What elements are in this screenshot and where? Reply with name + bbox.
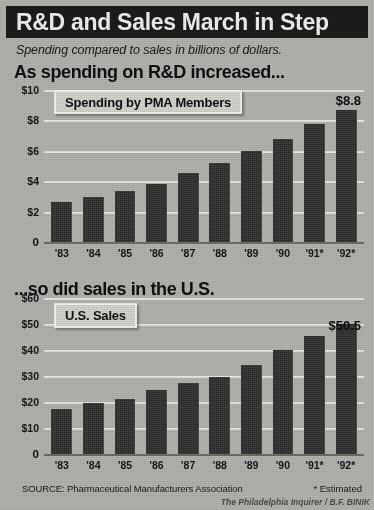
bar-column	[172, 300, 204, 454]
bar-85	[115, 191, 136, 242]
bar-89	[241, 151, 262, 243]
ytick-label: $40	[21, 344, 39, 356]
bar-column	[236, 300, 268, 454]
bar-83	[51, 202, 72, 243]
plot-area-spending: 0$2$4$6$8$10	[44, 92, 364, 244]
xtick-label: '83	[46, 247, 78, 259]
bar-column	[141, 92, 173, 242]
bar-column	[78, 92, 110, 242]
bar-90	[273, 350, 294, 454]
axis-baseline: 0	[44, 454, 364, 456]
bar-83	[51, 409, 72, 454]
bar-88	[209, 163, 230, 243]
xtick-label: '90	[267, 459, 299, 471]
ytick-label: $20	[21, 396, 39, 408]
ytick-label: $8	[27, 114, 39, 126]
ytick-label: $50	[21, 318, 39, 330]
bar-89	[241, 365, 262, 454]
bar-84	[83, 197, 104, 242]
xtick-label: '87	[172, 247, 204, 259]
bar-column	[267, 300, 299, 454]
bar-column	[109, 92, 141, 242]
bar-90	[273, 139, 294, 243]
legend-sales-label: U.S. Sales	[65, 308, 126, 323]
bar-91	[304, 336, 325, 454]
value-callout-sales: $50.5	[328, 318, 361, 333]
ytick-label: $10	[21, 422, 39, 434]
xtick-label: '90	[267, 247, 299, 259]
bar-column	[141, 300, 173, 454]
headline-bottom: ...so did sales in the U.S.	[14, 279, 214, 300]
masthead-banner: R&D and Sales March in Step	[6, 6, 368, 38]
bars-spending	[44, 92, 364, 242]
ytick-label: $2	[27, 206, 39, 218]
value-callout-spending: $8.8	[336, 93, 361, 108]
bar-86	[146, 184, 167, 243]
xtick-label: '89	[236, 459, 268, 471]
bar-88	[209, 377, 230, 454]
xtick-label: '84	[78, 247, 110, 259]
xtick-label: '86	[141, 247, 173, 259]
bar-87	[178, 173, 199, 242]
ytick-label: 0	[33, 448, 39, 460]
bar-92	[336, 110, 357, 242]
ytick-label: $30	[21, 370, 39, 382]
bar-column	[330, 92, 362, 242]
xtick-label: '91*	[299, 459, 331, 471]
bar-84	[83, 403, 104, 454]
page-title: R&D and Sales March in Step	[16, 9, 329, 36]
bar-column	[204, 300, 236, 454]
bar-column	[299, 300, 331, 454]
source-line: SOURCE: Pharmaceutical Manufacturers Ass…	[22, 483, 243, 494]
bar-column	[299, 92, 331, 242]
xtick-label: '88	[204, 459, 236, 471]
ytick-label: $10	[21, 84, 39, 96]
chart-spending-by-pma-members: 0$2$4$6$8$10 '83'84'85'86'87'88'89'90'91…	[8, 92, 368, 270]
xaxis-spending: '83'84'85'86'87'88'89'90'91*'92*	[44, 247, 364, 259]
xtick-label: '84	[78, 459, 110, 471]
infographic-page: R&D and Sales March in Step Spending com…	[0, 0, 374, 510]
bar-86	[146, 390, 167, 454]
legend-sales: U.S. Sales	[54, 303, 137, 328]
bar-column	[46, 92, 78, 242]
ytick-label: $4	[27, 175, 39, 187]
estimated-note: * Estimated	[313, 483, 362, 494]
xtick-label: '85	[109, 247, 141, 259]
xtick-label: '85	[109, 459, 141, 471]
legend-spending: Spending by PMA Members	[54, 90, 242, 114]
legend-spending-label: Spending by PMA Members	[65, 95, 231, 110]
xtick-label: '88	[204, 247, 236, 259]
bar-91	[304, 124, 325, 243]
headline-top: As spending on R&D increased...	[14, 62, 285, 83]
xtick-label: '92*	[330, 247, 362, 259]
bar-column	[267, 92, 299, 242]
xaxis-sales: '83'84'85'86'87'88'89'90'91*'92*	[44, 459, 364, 471]
bar-column	[204, 92, 236, 242]
xtick-label: '89	[236, 247, 268, 259]
xtick-label: '87	[172, 459, 204, 471]
ytick-label: $60	[21, 292, 39, 304]
bar-column	[172, 92, 204, 242]
bar-92	[336, 324, 357, 454]
xtick-label: '86	[141, 459, 173, 471]
bar-column	[236, 92, 268, 242]
xtick-label: '92*	[330, 459, 362, 471]
subtitle: Spending compared to sales in billions o…	[16, 43, 282, 57]
credit-line: The Philadelphia Inquirer / B.F. BINIK	[221, 497, 370, 507]
axis-baseline: 0	[44, 242, 364, 244]
bar-87	[178, 383, 199, 454]
bar-85	[115, 399, 136, 454]
xtick-label: '83	[46, 459, 78, 471]
ytick-label: $6	[27, 145, 39, 157]
xtick-label: '91*	[299, 247, 331, 259]
ytick-label: 0	[33, 236, 39, 248]
